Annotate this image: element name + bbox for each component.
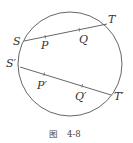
label-s: S (13, 35, 21, 48)
label-q: Q (79, 33, 88, 46)
caption-number: 4-8 (67, 129, 81, 139)
tick-q (79, 28, 80, 32)
tick-q-prime (82, 84, 83, 88)
label-p-prime: P′ (36, 79, 47, 92)
label-t-prime: T′ (114, 90, 124, 103)
label-p: P (40, 39, 49, 52)
caption-prefix: 图 (49, 129, 58, 139)
circle-chords-diagram: S T P Q S′ T′ P′ Q′ 图 4-8 (0, 0, 133, 143)
tick-p-prime (44, 73, 45, 77)
label-t: T (108, 13, 117, 26)
chord-st (24, 24, 107, 41)
tick-p (45, 35, 46, 39)
circle (18, 12, 122, 116)
label-q-prime: Q′ (75, 90, 87, 103)
chord-s-prime-t-prime (20, 67, 111, 95)
label-s-prime: S′ (6, 57, 17, 70)
